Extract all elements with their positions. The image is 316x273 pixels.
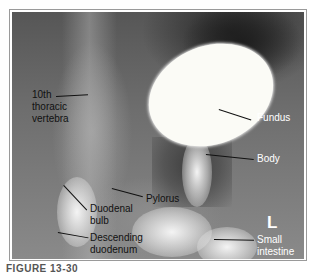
label-duodenal-bulb: Duodenal bulb <box>90 203 133 227</box>
body-contrast <box>182 137 212 207</box>
small-intestine-contrast <box>197 227 257 259</box>
label-body: Body <box>257 153 280 165</box>
label-pylorus: Pylorus <box>146 193 179 205</box>
label-fundus: Fundus <box>257 112 290 124</box>
radiograph-image <box>12 12 304 259</box>
label-duodenal-bulb-line2: bulb <box>90 215 133 227</box>
label-small-intestine: Small intestine <box>257 234 294 258</box>
orientation-marker-left: L <box>267 213 277 233</box>
label-descending-duodenum-line1: Descending <box>90 232 143 244</box>
label-descending-duodenum: Descending duodenum <box>90 232 143 256</box>
label-duodenal-bulb-line1: Duodenal <box>90 203 133 215</box>
label-vertebra-line3: vertebra <box>32 113 69 125</box>
label-vertebra: 10th thoracic vertebra <box>32 89 69 125</box>
label-small-intestine-line1: Small <box>257 234 294 246</box>
label-small-intestine-line2: intestine <box>257 246 294 258</box>
figure-caption: FIGURE 13-30 <box>6 263 78 273</box>
label-descending-duodenum-line2: duodenum <box>90 244 143 256</box>
label-vertebra-line2: thoracic <box>32 101 69 113</box>
